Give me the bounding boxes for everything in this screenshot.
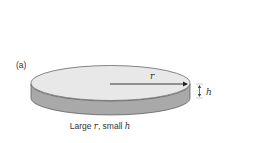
radius-label: r bbox=[150, 71, 155, 81]
disc-top-face bbox=[31, 66, 190, 101]
caption-middle: , small bbox=[98, 121, 125, 131]
caption-var-h: h bbox=[125, 121, 130, 131]
height-label: h bbox=[206, 87, 212, 97]
figure-caption: Large r, small h bbox=[0, 121, 200, 131]
caption-prefix: Large bbox=[70, 121, 94, 131]
height-indicator bbox=[196, 84, 203, 98]
